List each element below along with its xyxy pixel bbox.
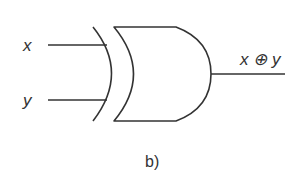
xor-gate-diagram: x y x ⊕ y b) [0, 0, 302, 184]
input-label-y: y [22, 91, 33, 110]
output-label: x ⊕ y [239, 50, 282, 69]
xor-gate-body [114, 27, 211, 121]
xor-input-arc [93, 27, 112, 121]
input-label-x: x [22, 36, 32, 55]
figure-caption: b) [145, 153, 159, 170]
